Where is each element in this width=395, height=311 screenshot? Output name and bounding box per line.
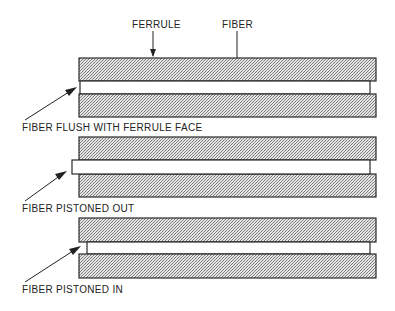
- diagram-fiber-pistoned-out: [25, 137, 376, 201]
- ferrule-top-half: [79, 58, 376, 81]
- diagram-fiber-flush: [25, 58, 376, 120]
- pistoned-in-label: FIBER PISTONED IN: [22, 284, 123, 295]
- ferrule-bottom-half: [79, 254, 376, 278]
- fiber-core: [87, 242, 370, 254]
- fiber-label: FIBER: [222, 19, 253, 30]
- pointer-arrow-icon: [25, 87, 77, 120]
- ferrule-bottom-half: [79, 174, 376, 197]
- ferrule-top-half: [79, 218, 376, 242]
- ferrule-bottom-half: [79, 94, 376, 117]
- ferrule-label: FERRULE: [132, 19, 181, 30]
- fiber-core: [80, 81, 370, 94]
- ferrule-arrow-icon: [150, 31, 156, 57]
- pointer-arrow-icon: [25, 246, 81, 282]
- fiber-core: [72, 160, 370, 174]
- diagram-fiber-pistoned-in: [25, 218, 376, 282]
- ferrule-fiber-diagram: FERRULE FIBER FIBER FLUSH WITH FERRULE F…: [0, 0, 395, 311]
- ferrule-top-half: [79, 137, 376, 160]
- flush-label: FIBER FLUSH WITH FERRULE FACE: [22, 122, 202, 133]
- pointer-arrow-icon: [25, 171, 67, 201]
- pistoned-out-label: FIBER PISTONED OUT: [22, 203, 134, 214]
